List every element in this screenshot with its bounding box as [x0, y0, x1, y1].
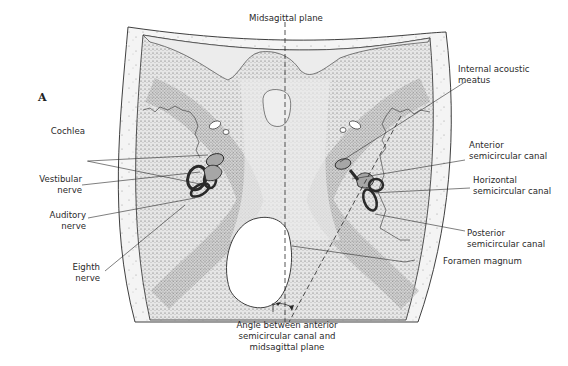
label-internal-acoustic-meatus: Internal acoustic meatus [458, 64, 530, 86]
label-angle-annotation: Angle between anterior semicircular cana… [213, 320, 361, 353]
label-cochlea: Cochlea [30, 126, 85, 137]
label-auditory-nerve: Auditory nerve [26, 210, 86, 232]
label-posterior-semicircular-canal: Posterior semicircular canal [467, 228, 545, 250]
label-foramen-magnum: Foramen magnum [443, 256, 522, 267]
panel-label: A [38, 91, 47, 104]
label-midsagittal-plane: Midsagittal plane [226, 13, 346, 24]
label-horizontal-semicircular-canal: Horizontal semicircular canal [473, 175, 551, 197]
label-anterior-semicircular-canal: Anterior semicircular canal [469, 140, 547, 162]
label-vestibular-nerve: Vestibular nerve [20, 174, 82, 196]
label-eighth-nerve: Eighth nerve [40, 262, 100, 284]
